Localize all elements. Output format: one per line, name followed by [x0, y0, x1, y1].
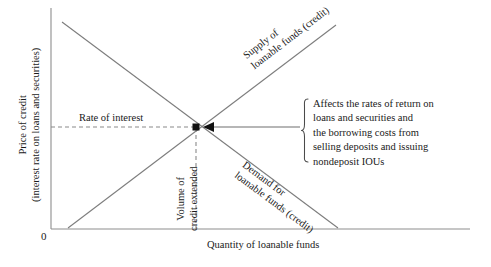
y-axis-title-line-1: Price of credit [17, 25, 30, 225]
annotation-line-5: nondeposit IOUs [313, 155, 485, 169]
annotation-line-2: loans and securities and [313, 111, 485, 125]
callout-arrow-head [203, 122, 214, 132]
annotation-line-3: the borrowing costs from [313, 126, 485, 140]
y-axis-title-line-2: (interest rate on loans and securities) [30, 25, 43, 225]
y-axis-title: Price of credit (interest rate on loans … [17, 25, 43, 225]
rate-of-interest-label: Rate of interest [79, 112, 143, 125]
equilibrium-point-marker [193, 124, 200, 131]
x-axis-title: Quantity of loanable funds [207, 239, 319, 252]
effect-annotation-text: Affects the rates of return on loans and… [313, 97, 485, 169]
loanable-funds-diagram: Price of credit (interest rate on loans … [0, 0, 491, 267]
volume-label-line-2: credit extended [188, 139, 201, 259]
origin-label: 0 [41, 230, 47, 243]
annotation-line-1: Affects the rates of return on [313, 97, 485, 111]
volume-label-line-1: Volume of [175, 139, 188, 259]
volume-of-credit-extended-label: Volume of credit extended [175, 139, 201, 259]
annotation-curly-brace [302, 99, 309, 162]
annotation-line-4: selling deposits and issuing [313, 140, 485, 154]
